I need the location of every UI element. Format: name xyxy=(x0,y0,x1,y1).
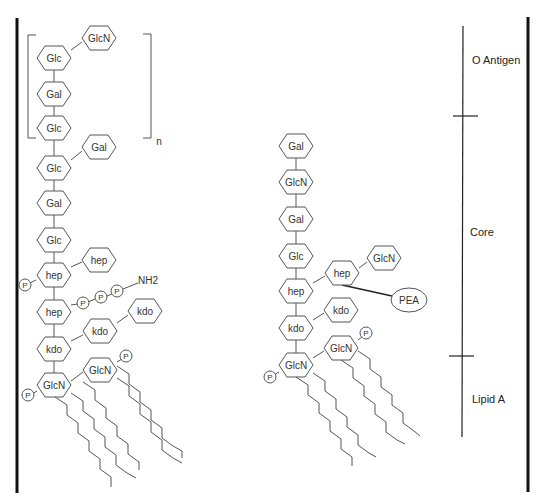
svg-text:P: P xyxy=(267,373,272,382)
sugar-node: Gal xyxy=(37,82,71,106)
sugar-node: GlcN xyxy=(279,353,313,377)
sugar-node: Gal xyxy=(279,207,313,231)
svg-text:Glc: Glc xyxy=(47,53,62,64)
svg-text:kdo: kdo xyxy=(288,323,305,334)
sugar-node: kdo xyxy=(279,316,313,340)
svg-text:P: P xyxy=(123,352,128,361)
phosphate-group: P xyxy=(95,291,107,303)
svg-text:P: P xyxy=(22,281,27,290)
sugar-branch: GlcN xyxy=(367,246,401,270)
phosphate-group: P xyxy=(22,389,34,401)
sugar-node: Glc xyxy=(37,156,71,180)
sugar-branch: hep xyxy=(325,261,359,285)
svg-text:P: P xyxy=(98,293,103,302)
pea-group: PEA xyxy=(391,288,427,312)
left-lipid-chains xyxy=(55,366,182,487)
sugar-node: Glc xyxy=(37,46,71,70)
svg-text:GlcN: GlcN xyxy=(285,177,307,188)
region-label-lipid-a: Lipid A xyxy=(472,393,506,405)
right-lipid-chains xyxy=(296,351,420,466)
svg-text:P: P xyxy=(114,287,119,296)
svg-text:kdo: kdo xyxy=(46,344,63,355)
svg-text:P: P xyxy=(80,299,85,308)
svg-text:GlcN: GlcN xyxy=(88,33,110,44)
sugar-node: Glc xyxy=(37,228,71,252)
sugar-node: Gal xyxy=(279,134,313,158)
sugar-branch: kdo xyxy=(324,298,358,322)
lps-diagram: O Antigen Core Lipid A n Glc xyxy=(0,0,548,502)
svg-text:Gal: Gal xyxy=(46,89,62,100)
svg-text:GlcN: GlcN xyxy=(373,253,395,264)
sugar-branch: kdo xyxy=(83,319,117,343)
phosphate-group: P xyxy=(111,285,123,297)
svg-text:PEA: PEA xyxy=(399,295,419,306)
svg-text:GlcN: GlcN xyxy=(43,380,65,391)
sugar-node: hep xyxy=(279,279,313,303)
sugar-node: Glc xyxy=(37,116,71,140)
svg-text:hep: hep xyxy=(46,270,63,281)
amine-label: NH2 xyxy=(138,275,158,286)
sugar-branch: GlcN xyxy=(324,336,358,360)
sugar-node: hep xyxy=(37,263,71,287)
sugar-node: kdo xyxy=(37,337,71,361)
phosphate-group: P xyxy=(264,371,276,383)
phosphate-group: P xyxy=(360,327,372,339)
svg-text:Glc: Glc xyxy=(47,123,62,134)
svg-text:P: P xyxy=(25,391,30,400)
region-label-o-antigen: O Antigen xyxy=(472,54,520,66)
phosphate-group: P xyxy=(19,279,31,291)
svg-text:GlcN: GlcN xyxy=(89,365,111,376)
svg-text:Glc: Glc xyxy=(47,235,62,246)
sugar-branch: kdo xyxy=(128,299,162,323)
repeat-subscript: n xyxy=(156,136,162,147)
sugar-branch: hep xyxy=(82,248,116,272)
sugar-node: hep xyxy=(37,300,71,324)
svg-text:Gal: Gal xyxy=(288,214,304,225)
sugar-branch: Gal xyxy=(82,135,116,159)
svg-text:Glc: Glc xyxy=(289,251,304,262)
phosphate-group: P xyxy=(120,350,132,362)
svg-text:hep: hep xyxy=(46,307,63,318)
svg-text:Glc: Glc xyxy=(47,163,62,174)
sugar-node: GlcN xyxy=(279,170,313,194)
sugar-branch: GlcN xyxy=(83,358,117,382)
svg-text:Gal: Gal xyxy=(46,198,62,209)
sugar-node: GlcN xyxy=(37,373,71,397)
svg-text:kdo: kdo xyxy=(333,305,350,316)
region-axis: O Antigen Core Lipid A xyxy=(449,26,520,437)
sugar-node: Gal xyxy=(37,191,71,215)
sugar-node: Glc xyxy=(279,244,313,268)
svg-text:Gal: Gal xyxy=(91,142,107,153)
right-sugar-chain: Gal GlcN Gal Glc hep kdo GlcN hep GlcN k… xyxy=(279,134,427,377)
svg-text:GlcN: GlcN xyxy=(285,360,307,371)
svg-text:Gal: Gal xyxy=(288,141,304,152)
phosphate-group: P xyxy=(77,297,89,309)
left-sugar-chain: Glc Gal Glc Glc Gal Glc hep hep kdo GlcN… xyxy=(37,26,162,397)
svg-text:hep: hep xyxy=(334,268,351,279)
region-label-core: Core xyxy=(470,226,494,238)
svg-text:kdo: kdo xyxy=(92,326,109,337)
sugar-branch: GlcN xyxy=(82,26,116,50)
svg-text:GlcN: GlcN xyxy=(330,343,352,354)
svg-text:P: P xyxy=(363,329,368,338)
svg-text:kdo: kdo xyxy=(137,306,154,317)
svg-text:hep: hep xyxy=(288,286,305,297)
svg-text:hep: hep xyxy=(91,255,108,266)
